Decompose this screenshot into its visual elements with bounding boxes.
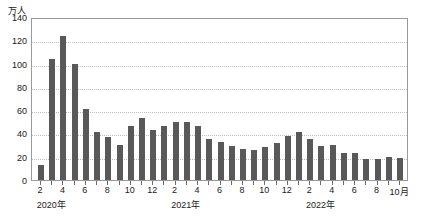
x-axis-tick-label: 4: [60, 185, 65, 195]
bar: [72, 64, 78, 180]
bar: [363, 159, 369, 180]
bar: [262, 147, 268, 180]
bar: [330, 145, 336, 180]
x-axis-tick: [253, 181, 254, 185]
y-axis-tick-label: 60: [0, 106, 27, 116]
x-axis-tick: [51, 181, 52, 185]
x-axis-tick: [231, 181, 232, 185]
bar: [49, 59, 55, 180]
x-axis-tick-label: 12: [147, 185, 157, 195]
bar: [285, 136, 291, 180]
x-axis-tick: [365, 181, 366, 185]
x-axis-tick-label: 8: [239, 185, 244, 195]
bar: [206, 139, 212, 180]
bar: [150, 130, 156, 180]
x-axis-tick-label: 6: [217, 185, 222, 195]
bar: [105, 137, 111, 180]
y-axis-tick-label: 0: [0, 176, 27, 186]
bar-series: [32, 19, 407, 180]
x-axis-tick-label: 10: [125, 185, 135, 195]
bar: [386, 157, 392, 180]
x-axis-tick: [186, 181, 187, 185]
bar: [94, 132, 100, 180]
x-axis-tick-label: 2: [37, 185, 42, 195]
bar: [341, 153, 347, 180]
y-axis-labels: 020406080100120140: [0, 0, 31, 217]
y-axis-tick-label: 40: [0, 129, 27, 139]
x-axis-tick: [119, 181, 120, 185]
x-axis-tick: [320, 181, 321, 185]
bar: [117, 145, 123, 180]
x-axis-tick: [96, 181, 97, 185]
bar: [195, 126, 201, 180]
x-axis-tick: [298, 181, 299, 185]
y-axis-tick-label: 80: [0, 83, 27, 93]
bar: [173, 122, 179, 180]
x-axis-tick-label: 10: [259, 185, 269, 195]
bar: [184, 122, 190, 180]
x-axis-tick-label: 8: [105, 185, 110, 195]
bar: [274, 143, 280, 180]
x-axis-year-label: 2022年: [306, 198, 335, 211]
y-axis-tick-label: 140: [0, 13, 27, 23]
bar: [83, 109, 89, 180]
x-axis-tick-label: 2: [307, 185, 312, 195]
bar: [240, 149, 246, 180]
x-axis-tick-label: 4: [195, 185, 200, 195]
x-axis-tick-label: 12: [282, 185, 292, 195]
x-axis-tick-label: 8: [374, 185, 379, 195]
bar: [139, 118, 145, 180]
bar: [128, 126, 134, 180]
x-axis-tick: [276, 181, 277, 185]
bar: [60, 36, 66, 180]
x-axis-tick-label: 4: [329, 185, 334, 195]
plot-area: [31, 18, 408, 181]
bar: [251, 150, 257, 180]
bar: [318, 146, 324, 180]
bar: [307, 139, 313, 180]
x-axis-year-label: 2020年: [37, 198, 66, 211]
x-axis-tick: [208, 181, 209, 185]
x-axis-tick: [163, 181, 164, 185]
bar: [218, 142, 224, 180]
y-axis-tick-label: 20: [0, 153, 27, 163]
bar: [296, 132, 302, 180]
bar-chart: 万人 020406080100120140 246810122468101224…: [0, 0, 429, 217]
x-axis-tick-label: 2: [172, 185, 177, 195]
bar: [375, 159, 381, 180]
y-axis-tick-label: 120: [0, 36, 27, 46]
bar: [229, 146, 235, 180]
x-axis-tick: [343, 181, 344, 185]
x-axis-tick: [141, 181, 142, 185]
x-axis-tick-label: 10月: [390, 185, 409, 198]
bar: [397, 158, 403, 180]
y-axis-tick-label: 100: [0, 60, 27, 70]
x-axis-tick-label: 6: [352, 185, 357, 195]
x-axis-tick-label: 6: [82, 185, 87, 195]
x-axis-tick: [74, 181, 75, 185]
bar: [352, 153, 358, 180]
bar: [38, 165, 44, 180]
x-axis: 2468101224681012246810月2020年2021年2022年: [31, 181, 408, 217]
x-axis-year-label: 2021年: [171, 198, 200, 211]
bar: [161, 126, 167, 180]
